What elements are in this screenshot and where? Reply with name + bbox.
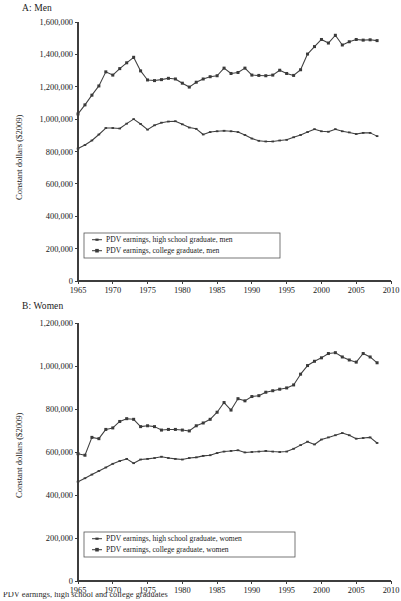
y-tick-label: 800,000	[46, 405, 73, 414]
data-point	[132, 118, 135, 120]
x-tick-label: 1990	[244, 286, 261, 295]
data-point	[369, 355, 372, 358]
data-point	[334, 351, 337, 354]
data-point	[153, 124, 156, 126]
x-tick-label: 1995	[278, 286, 295, 295]
x-tick-label: 1985	[209, 286, 226, 295]
data-point	[348, 131, 351, 133]
data-point	[139, 69, 142, 72]
data-point	[313, 45, 316, 48]
data-point	[90, 436, 93, 439]
data-point	[216, 130, 219, 132]
data-point	[334, 34, 337, 37]
data-point	[251, 138, 254, 140]
data-point	[376, 361, 379, 364]
data-point	[306, 364, 309, 367]
data-point	[195, 424, 198, 427]
data-point	[209, 418, 212, 421]
data-point	[355, 133, 358, 135]
data-point	[125, 458, 128, 460]
series-line-1	[78, 353, 377, 456]
data-point	[237, 449, 240, 451]
y-tick-label: 1,400,000	[40, 50, 74, 59]
data-point	[251, 451, 254, 453]
data-point	[174, 428, 177, 431]
data-point	[327, 436, 330, 438]
y-tick-label: 400,000	[46, 491, 73, 500]
data-point	[83, 454, 86, 457]
data-point	[146, 458, 149, 460]
data-point	[292, 448, 295, 450]
data-point	[216, 74, 219, 77]
x-tick-label: 2010	[383, 286, 400, 295]
data-point	[362, 437, 365, 439]
legend-marker	[95, 249, 99, 253]
data-point	[125, 417, 128, 420]
data-point	[376, 39, 379, 42]
y-tick-label: 1,000,000	[40, 115, 74, 124]
data-point	[362, 39, 365, 42]
data-point	[139, 123, 142, 125]
data-point	[181, 459, 184, 461]
data-point	[216, 411, 219, 414]
data-point	[83, 103, 86, 106]
data-point	[111, 74, 114, 77]
data-point	[202, 134, 205, 136]
data-point	[118, 420, 121, 423]
data-point	[285, 386, 288, 389]
data-point	[160, 78, 163, 81]
data-point	[188, 86, 191, 89]
data-point	[355, 438, 358, 440]
data-point	[209, 454, 212, 456]
data-point	[160, 456, 163, 458]
data-point	[278, 451, 281, 453]
data-point	[77, 481, 80, 483]
data-point	[216, 452, 219, 454]
data-point	[125, 123, 128, 125]
data-point	[341, 355, 344, 358]
data-point	[181, 82, 184, 85]
data-point	[244, 134, 247, 136]
data-point	[271, 389, 274, 392]
data-point	[264, 74, 267, 77]
data-point	[327, 352, 330, 355]
data-point	[146, 424, 149, 427]
series-line-0	[78, 119, 377, 148]
data-point	[146, 78, 149, 81]
data-point	[118, 460, 121, 462]
y-tick-label: 200,000	[46, 245, 73, 254]
data-point	[230, 72, 233, 75]
data-point	[327, 42, 330, 45]
data-point	[369, 436, 372, 438]
data-point	[334, 434, 337, 436]
data-point	[223, 401, 226, 404]
y-tick-label: 400,000	[46, 212, 73, 221]
legend-label: PDV earnings, college graduate, men	[106, 246, 220, 255]
data-point	[320, 130, 323, 132]
data-point	[285, 139, 288, 141]
panel-a-plot: 0200,000400,000600,000800,0001,000,0001,…	[0, 0, 401, 300]
x-tick-label: 1970	[104, 286, 121, 295]
data-point	[105, 467, 108, 469]
data-point	[355, 361, 358, 364]
data-point	[376, 442, 379, 444]
data-point	[236, 397, 239, 400]
figure-caption: PDV earnings, high school and college gr…	[3, 592, 168, 599]
data-point	[167, 428, 170, 431]
data-point	[125, 61, 128, 64]
data-point	[265, 450, 268, 452]
y-tick-label: 800,000	[46, 148, 73, 157]
data-point	[202, 421, 205, 424]
data-point	[84, 477, 87, 479]
data-point	[243, 67, 246, 70]
data-point	[223, 67, 226, 70]
data-point	[257, 74, 260, 77]
data-point	[320, 439, 323, 441]
data-point	[167, 121, 170, 123]
y-tick-label: 600,000	[46, 448, 73, 457]
x-tick-label: 1980	[174, 286, 191, 295]
y-tick-label: 1,000,000	[40, 362, 74, 371]
data-point	[97, 84, 100, 87]
data-point	[98, 134, 101, 136]
data-point	[341, 432, 344, 434]
